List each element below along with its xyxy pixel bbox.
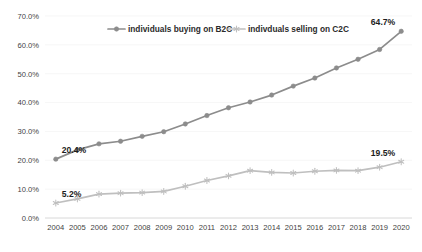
x-axis-tick-label: 2007 <box>112 223 129 232</box>
y-axis-tick-label: 20.0% <box>17 156 39 165</box>
x-axis-tick-label: 2015 <box>285 223 302 232</box>
y-axis-tick-label: 40.0% <box>17 98 39 107</box>
data-point-marker <box>226 106 230 110</box>
series-1 <box>54 29 404 161</box>
data-point-marker <box>248 100 252 104</box>
x-axis-tick-label: 2004 <box>47 223 64 232</box>
y-axis-tick-label: 30.0% <box>17 127 39 136</box>
line-chart: 0.0%10.0%20.0%30.0%40.0%50.0%60.0%70.0% … <box>0 0 422 252</box>
data-point-marker <box>334 66 338 70</box>
x-axis-tick-label: 2011 <box>199 223 215 232</box>
legend-swatch-marker <box>114 27 118 31</box>
data-point-marker <box>399 29 403 33</box>
series-line <box>56 31 401 159</box>
y-axis-tick-labels: 0.0%10.0%20.0%30.0%40.0%50.0%60.0%70.0% <box>17 12 39 223</box>
data-point-marker <box>356 57 360 61</box>
gridlines <box>45 16 412 218</box>
data-point-marker <box>97 142 101 146</box>
y-axis-tick-label: 70.0% <box>17 12 39 21</box>
x-axis-tick-label: 2014 <box>263 223 280 232</box>
chart-legend[interactable]: individuals buying on B2Cindivduals sell… <box>108 24 349 34</box>
data-point-marker <box>118 139 122 143</box>
data-series <box>53 29 403 206</box>
x-axis-tick-label: 2013 <box>242 223 259 232</box>
data-point-label: 19.5% <box>371 148 396 158</box>
x-axis-tick-label: 2017 <box>328 223 345 232</box>
x-axis-tick-label: 2019 <box>371 223 388 232</box>
legend-label: indivduals selling on C2C <box>248 24 349 34</box>
x-axis-tick-label: 2018 <box>350 223 367 232</box>
data-point-marker <box>377 47 381 51</box>
x-axis-tick-label: 2006 <box>91 223 108 232</box>
x-axis-tick-label: 2012 <box>220 223 237 232</box>
series-2 <box>53 159 403 206</box>
x-axis-tick-label: 2020 <box>393 223 410 232</box>
y-axis-tick-label: 50.0% <box>17 70 39 79</box>
x-axis-tick-labels: 2004200520062007200820092010201120122013… <box>47 223 409 232</box>
x-axis-tick-label: 2009 <box>155 223 172 232</box>
data-point-label: 64.7% <box>371 17 396 27</box>
chart-canvas: 0.0%10.0%20.0%30.0%40.0%50.0%60.0%70.0% … <box>0 0 422 252</box>
data-point-label: 20.4% <box>62 145 87 155</box>
data-point-marker <box>291 84 295 88</box>
data-point-marker <box>205 113 209 117</box>
data-point-marker <box>313 76 317 80</box>
x-axis-tick-label: 2016 <box>306 223 323 232</box>
data-point-marker <box>54 157 58 161</box>
data-point-label: 5.2% <box>62 189 82 199</box>
data-point-marker <box>140 134 144 138</box>
y-axis-tick-label: 10.0% <box>17 185 39 194</box>
x-axis-tick-label: 2010 <box>177 223 194 232</box>
data-point-marker <box>269 93 273 97</box>
legend-item-1[interactable]: individuals buying on B2C <box>108 24 232 34</box>
data-point-marker <box>183 122 187 126</box>
legend-item-2[interactable]: indivduals selling on C2C <box>228 24 349 34</box>
legend-label: individuals buying on B2C <box>128 24 232 34</box>
data-point-marker <box>162 130 166 134</box>
series-line <box>56 162 401 203</box>
y-axis-tick-label: 0.0% <box>22 214 40 223</box>
y-axis-tick-label: 60.0% <box>17 41 39 50</box>
x-axis-tick-label: 2008 <box>134 223 151 232</box>
x-axis-tick-label: 2005 <box>69 223 86 232</box>
